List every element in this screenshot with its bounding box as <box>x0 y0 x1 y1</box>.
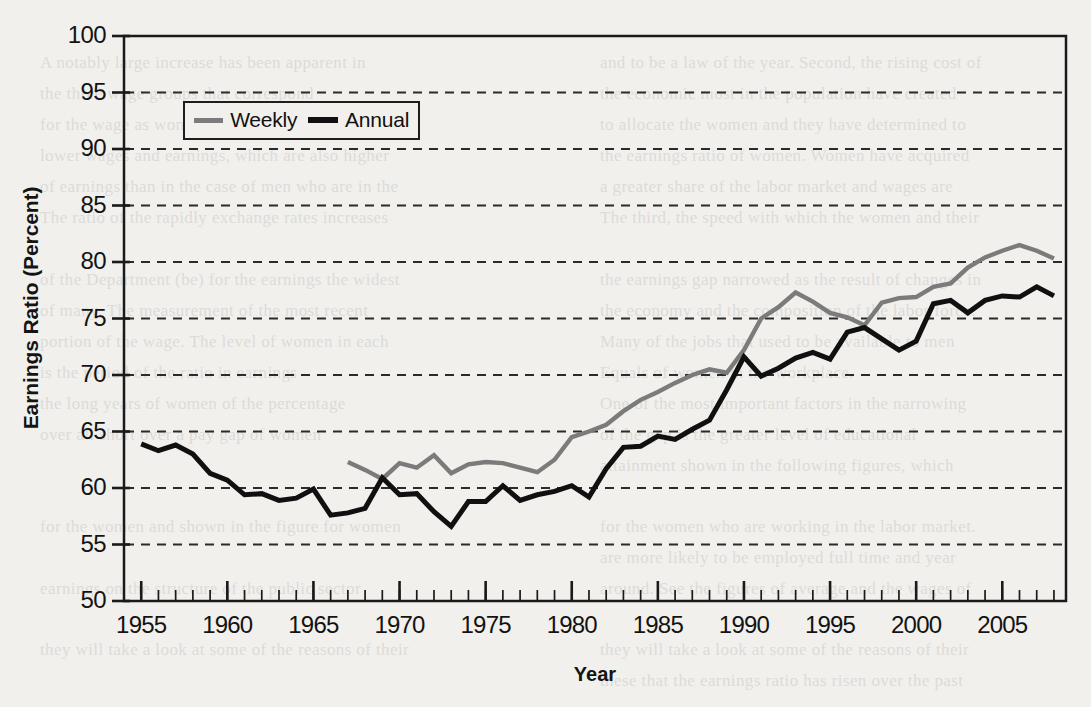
x-tick-label-1970: 1970 <box>357 611 443 639</box>
y-tick-label-90: 90 <box>40 134 106 162</box>
x-tick-label-1955: 1955 <box>98 611 184 639</box>
y-tick-label-95: 95 <box>40 78 106 106</box>
legend-swatch-annual <box>308 117 338 123</box>
legend-swatch-weekly <box>194 118 224 123</box>
x-axis-title: Year <box>124 663 1066 686</box>
y-tick-label-65: 65 <box>40 417 106 445</box>
y-tick-label-80: 80 <box>40 247 106 275</box>
x-axis-major-ticks <box>141 581 1002 602</box>
earnings-ratio-line-chart: Earnings Ratio (Percent) Year 1009590858… <box>0 0 1091 707</box>
legend-label-annual: Annual <box>345 108 409 132</box>
x-tick-label-1995: 1995 <box>787 611 873 639</box>
x-tick-label-1980: 1980 <box>529 611 615 639</box>
y-tick-label-70: 70 <box>40 360 106 388</box>
scanned-page: and to be a law of the year. Second, the… <box>0 0 1091 707</box>
x-tick-label-1965: 1965 <box>270 611 356 639</box>
plot-canvas <box>0 0 1091 707</box>
y-tick-label-85: 85 <box>40 191 106 219</box>
x-tick-label-1985: 1985 <box>615 611 701 639</box>
chart-legend: Weekly Annual <box>183 101 421 141</box>
x-tick-label-2005: 2005 <box>959 611 1045 639</box>
y-tick-label-75: 75 <box>40 304 106 332</box>
y-tick-label-60: 60 <box>40 473 106 501</box>
y-tick-label-50: 50 <box>40 586 106 614</box>
y-tick-label-55: 55 <box>40 530 106 558</box>
x-tick-label-1990: 1990 <box>701 611 787 639</box>
y-axis-ticks <box>112 36 130 601</box>
y-tick-label-100: 100 <box>40 21 106 49</box>
data-series-lines <box>141 245 1054 526</box>
x-tick-label-1960: 1960 <box>184 611 270 639</box>
x-tick-label-2000: 2000 <box>873 611 959 639</box>
x-tick-label-1975: 1975 <box>443 611 529 639</box>
legend-label-weekly: Weekly <box>230 108 297 132</box>
